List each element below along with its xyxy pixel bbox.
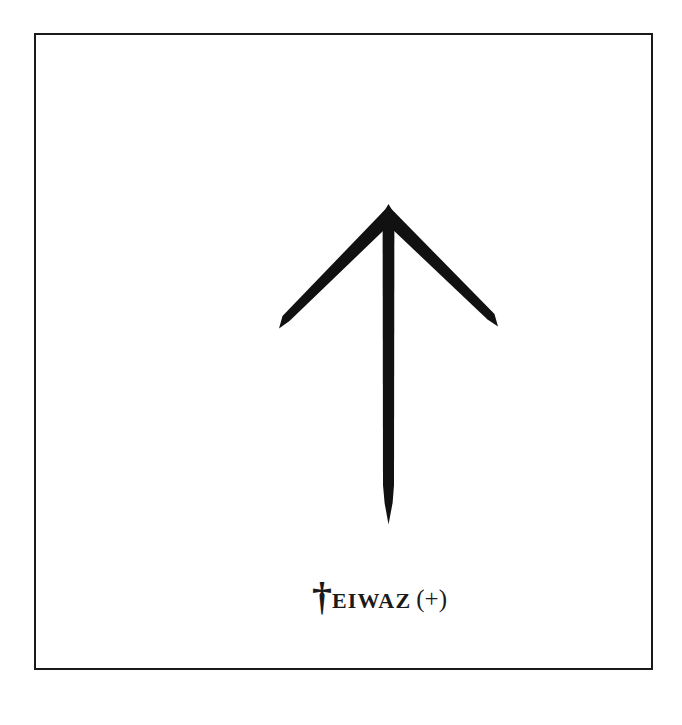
caption-rune-name: EIWAZ [332,580,411,615]
rune-ink-group [279,204,498,525]
rune-left-arm [279,206,396,329]
rune-caption: †EIWAZ(+) [70,575,682,615]
rune-apex [379,204,399,221]
teiwaz-rune-figure [246,185,536,550]
rune-stem [383,212,395,525]
teiwaz-rune-svg [246,185,536,550]
caption-rune-initial-icon: † [312,574,332,619]
rune-card-frame: †EIWAZ(+) [34,33,653,670]
caption-polarity-mark: (+) [416,585,447,612]
rune-right-arm [381,206,498,327]
page-canvas: †EIWAZ(+) [0,0,682,725]
